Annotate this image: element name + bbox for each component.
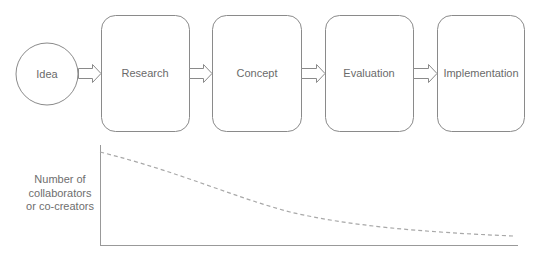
- collaborators-curve: [100, 152, 513, 236]
- y-axis-label-line: Number of: [26, 173, 94, 187]
- arrow-icon: [190, 65, 213, 83]
- stage-label-evaluation: Evaluation: [343, 67, 394, 79]
- stage-label-concept: Concept: [237, 67, 278, 79]
- diagram-canvas: [0, 0, 541, 259]
- stage-label-implementation: Implementation: [443, 67, 518, 79]
- stage-label-research: Research: [121, 67, 168, 79]
- y-axis-label: Number of collaborators or co-creators: [26, 173, 94, 214]
- arrow-icon: [79, 65, 102, 83]
- idea-label: Idea: [36, 68, 57, 80]
- y-axis-label-line: collaborators: [26, 186, 94, 200]
- y-axis-label-line: or co-creators: [26, 200, 94, 214]
- arrow-icon: [414, 65, 438, 83]
- arrow-icon: [302, 65, 326, 83]
